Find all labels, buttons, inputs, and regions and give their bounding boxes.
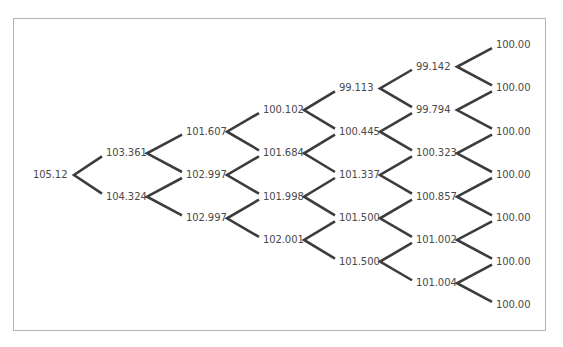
node-value: 100.00 [496,212,530,224]
node-value: 100.857 [416,191,457,203]
branch-line [304,221,335,258]
node-value: 101.500 [339,212,380,224]
node-value: 101.337 [339,169,380,181]
node-value: 102.997 [186,212,227,224]
node-value: 105.12 [33,169,67,181]
branch-line [227,200,259,237]
node-value: 100.00 [496,82,530,94]
node-value: 100.445 [339,126,380,138]
node-value: 100.00 [496,256,530,268]
branch-line [457,178,492,215]
branch-line [74,156,102,193]
branch-line [304,91,335,128]
branch-line [457,91,492,128]
node-value: 100.323 [416,147,457,159]
branch-line [457,135,492,172]
branch-line [380,113,412,150]
node-value: 99.113 [339,82,373,94]
branch-line [227,113,259,150]
branch-line [304,178,335,215]
node-value: 104.324 [106,191,147,203]
node-value: 103.361 [106,147,147,159]
branch-line [147,135,182,172]
branch-line [380,243,412,280]
node-value: 100.00 [496,299,530,311]
node-value: 102.997 [186,169,227,181]
branch-line [457,265,492,302]
tree-branches [0,0,563,347]
node-value: 102.001 [263,234,304,246]
node-value: 101.998 [263,191,304,203]
node-value: 99.794 [416,104,450,116]
node-value: 100.00 [496,39,530,51]
branch-line [457,221,492,258]
node-value: 100.102 [263,104,304,116]
branch-line [380,156,412,193]
node-value: 101.002 [416,234,457,246]
node-value: 101.500 [339,256,380,268]
node-value: 101.684 [263,147,304,159]
branch-line [380,200,412,237]
branch-line [380,70,412,107]
node-value: 100.00 [496,126,530,138]
node-value: 101.004 [416,277,457,289]
branch-line [457,48,492,85]
node-value: 99.142 [416,61,450,73]
node-value: 100.00 [496,169,530,181]
branch-line [227,156,259,193]
branch-line [304,135,335,172]
node-value: 101.607 [186,126,227,138]
branch-line [147,178,182,215]
